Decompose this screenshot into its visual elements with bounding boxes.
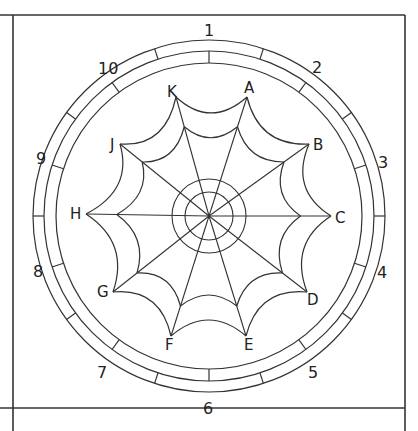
web-scallop-outer — [246, 292, 307, 336]
web-scallop-inner — [237, 273, 283, 306]
outer-ring-tick — [155, 49, 158, 59]
segment-number-4: 4 — [377, 263, 387, 282]
segment-number-5: 5 — [308, 363, 318, 382]
inner-ring-tick — [112, 340, 119, 350]
web-scallop-outer — [113, 292, 171, 336]
web-window-diagram: ABCDEFGHJK 12345678910 — [0, 0, 418, 431]
spoke-j — [120, 144, 209, 216]
point-label-e: E — [244, 336, 253, 354]
point-label-h: H — [70, 205, 81, 223]
inner-ring-tick — [355, 165, 366, 169]
web-scallop-outer — [303, 144, 331, 216]
point-label-k: K — [167, 83, 178, 101]
web-scallop-inner — [280, 162, 300, 216]
web-scallop-inner — [117, 162, 144, 215]
point-label-j: J — [109, 136, 114, 154]
web-scallop-outer — [247, 97, 309, 144]
inner-ring-tick — [52, 165, 63, 169]
web-scallop-inner — [279, 216, 300, 273]
spoke-d — [209, 216, 307, 292]
web-scallop-outer — [120, 97, 176, 144]
inner-ring-tick — [299, 83, 306, 93]
spoke-h — [86, 214, 209, 216]
point-label-g: G — [97, 283, 109, 301]
inner-ring-tick — [112, 83, 119, 93]
segment-number-9: 9 — [36, 149, 46, 168]
web-scallop-inner — [142, 127, 184, 162]
inner-ring-tick — [299, 340, 306, 350]
web-scallop-outer — [86, 214, 118, 292]
outer-ring-tick — [67, 113, 76, 119]
outer-ring-tick — [260, 49, 263, 59]
point-label-b: B — [313, 136, 323, 154]
web-scallop-outer — [171, 320, 246, 336]
web-scallop-inner — [181, 295, 237, 306]
segment-number-10: 10 — [98, 59, 118, 78]
segment-number-1: 1 — [204, 21, 214, 40]
point-label-f: F — [165, 336, 174, 354]
spoke-b — [209, 144, 309, 216]
outer-ring-tick — [67, 313, 76, 319]
segment-number-3: 3 — [378, 153, 388, 172]
inner-ring-tick — [52, 263, 63, 267]
outer-ring-tick — [342, 313, 351, 319]
segment-number-7: 7 — [97, 363, 107, 382]
spoke-e — [209, 216, 246, 336]
outer-ring-tick — [260, 373, 263, 383]
outer-ring-tick — [342, 113, 351, 119]
web-scallop-inner — [137, 273, 181, 306]
web-scallop-outer — [86, 144, 123, 214]
spoke-g — [113, 216, 209, 292]
point-label-d: D — [307, 291, 319, 309]
outer-ring-tick — [155, 373, 158, 383]
point-label-c: C — [335, 209, 345, 227]
segment-number-8: 8 — [33, 262, 43, 281]
segment-number-6: 6 — [203, 399, 213, 418]
web-spokes — [86, 97, 331, 336]
web-scallop-inner — [117, 215, 140, 274]
inner-ring-tick — [355, 263, 366, 267]
web-scallop-inner — [238, 127, 285, 162]
web-scallop-inner — [184, 127, 237, 138]
point-label-a: A — [244, 79, 255, 97]
web-scallop-outer — [301, 216, 331, 292]
segment-number-2: 2 — [312, 58, 322, 77]
web-scallop-outer — [176, 97, 247, 113]
